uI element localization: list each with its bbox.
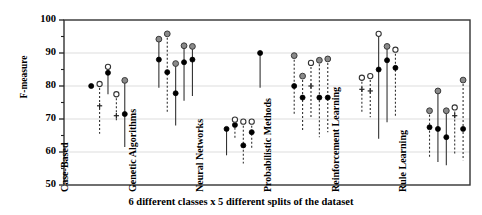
group-label-neural-networks: Neural Networks [194,119,205,192]
y-tick-label: 50 [30,178,56,189]
group-label-case-based: Case-Based [59,143,70,192]
chart-figure: F-measure 6 different classes x 5 differ… [0,0,482,215]
group-label-rule-learning: Rule Learning [397,130,408,192]
group-label-reinforcement-learning: Reinforcement Learning [330,87,341,192]
group-label-genetic-algorithms: Genetic Algorithms [127,109,138,192]
group-label-probabilistic-methods: Probabilistic Methods [262,98,273,192]
y-tick-label: 100 [30,13,56,24]
plot-area [0,0,482,215]
y-tick-label: 60 [30,145,56,156]
y-tick-label: 70 [30,112,56,123]
y-tick-label: 90 [30,46,56,57]
y-tick-label: 80 [30,79,56,90]
